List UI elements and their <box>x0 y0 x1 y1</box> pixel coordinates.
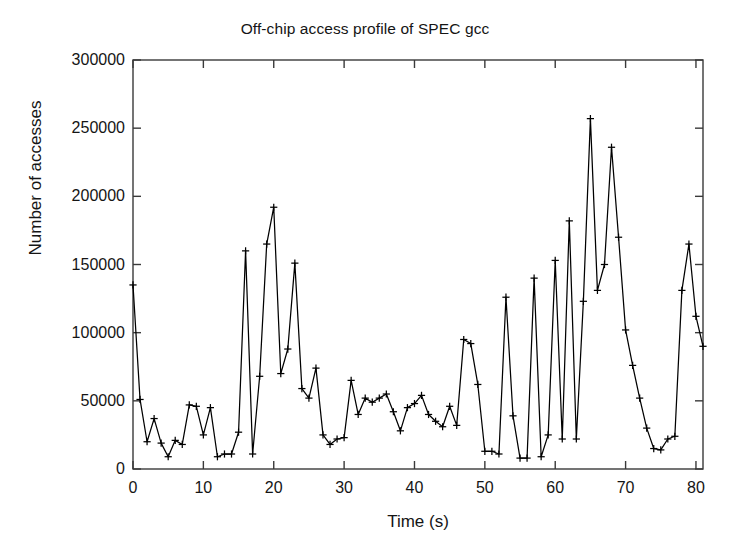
chart-figure: Off-chip access profile of SPEC gcc Numb… <box>0 0 730 556</box>
y-tick-label: 100000 <box>15 324 125 342</box>
plot-frame <box>133 60 703 469</box>
y-tick-label: 0 <box>15 460 125 478</box>
y-tick-label: 50000 <box>15 392 125 410</box>
x-tick-label: 50 <box>455 479 515 497</box>
x-tick-label: 10 <box>173 479 233 497</box>
x-tick-label: 70 <box>596 479 656 497</box>
y-tick-label: 150000 <box>15 256 125 274</box>
x-tick-label: 60 <box>525 479 585 497</box>
y-tick-label: 200000 <box>15 187 125 205</box>
x-tick-label: 40 <box>384 479 444 497</box>
y-tick-label: 250000 <box>15 119 125 137</box>
x-tick-label: 0 <box>103 479 163 497</box>
x-tick-label: 20 <box>244 479 304 497</box>
y-tick-label: 300000 <box>15 51 125 69</box>
x-tick-label: 80 <box>666 479 726 497</box>
x-tick-label: 30 <box>314 479 374 497</box>
